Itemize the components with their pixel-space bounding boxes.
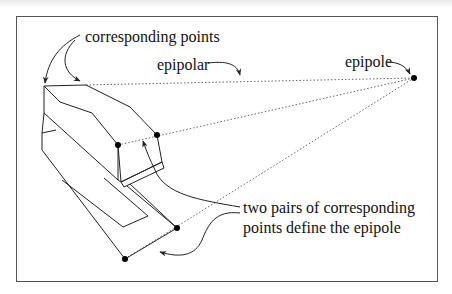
- corresponding-point-1a: [115, 142, 121, 148]
- label-two-pairs-line2: points define the epipole: [243, 219, 401, 237]
- arrow-corresponding-left: [45, 35, 80, 83]
- arrow-corresponding-right: [65, 40, 80, 81]
- epipole-point: [411, 75, 417, 81]
- epipolar-line-top: [86, 78, 414, 85]
- epipolar-line-middle: [118, 78, 414, 145]
- label-epipolar: epipolar: [157, 56, 210, 74]
- corresponding-point-2a: [122, 256, 128, 262]
- stapler-top-outline: [44, 85, 162, 182]
- arrow-pairs-upper: [143, 141, 240, 207]
- arrow-pairs-lower: [160, 213, 240, 255]
- epipole-diagram: corresponding points epipolar epipole tw…: [0, 0, 452, 294]
- label-epipole: epipole: [345, 53, 392, 71]
- corresponding-point-1b: [154, 132, 160, 138]
- stapler-base-outline: [42, 130, 177, 259]
- label-two-pairs-line1: two pairs of corresponding: [243, 199, 415, 217]
- label-corresponding-points: corresponding points: [85, 28, 220, 46]
- stapler-slot: [62, 178, 148, 227]
- corresponding-point-2b: [174, 225, 180, 231]
- arrow-epipolar: [208, 62, 240, 75]
- stapler-left-side: [44, 86, 118, 180]
- stapler-base-join: [42, 113, 44, 133]
- stapler-drawing: [42, 85, 177, 259]
